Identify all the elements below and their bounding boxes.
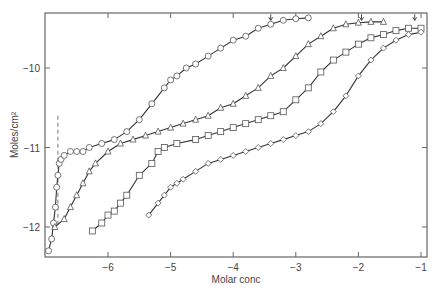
triangle-marker bbox=[230, 100, 236, 106]
circle-marker bbox=[86, 145, 92, 151]
y-tick-label: −12 bbox=[23, 222, 40, 233]
circle-marker bbox=[205, 53, 211, 59]
triangle-marker bbox=[67, 204, 73, 210]
circle-marker bbox=[52, 204, 58, 210]
square-marker bbox=[280, 109, 286, 115]
triangle-marker bbox=[205, 112, 211, 118]
y-tick-label: −11 bbox=[24, 143, 41, 154]
diamond-marker bbox=[305, 129, 311, 135]
square-marker bbox=[330, 57, 336, 63]
square-marker bbox=[205, 133, 211, 139]
triangle-marker bbox=[105, 148, 111, 154]
triangle-marker bbox=[305, 41, 311, 47]
chart: −6−5−4−3−2−1 −10−11−12 Molar conc Moles/… bbox=[0, 0, 438, 290]
circle-marker bbox=[168, 77, 174, 83]
circle-marker bbox=[174, 73, 180, 79]
diamond-marker bbox=[218, 156, 224, 162]
circle-marker bbox=[149, 101, 155, 107]
square-marker bbox=[218, 129, 224, 135]
circle-marker bbox=[280, 17, 286, 23]
square-marker bbox=[230, 125, 236, 131]
triangle-marker bbox=[318, 33, 324, 39]
square-marker bbox=[318, 69, 324, 75]
circle-marker bbox=[268, 21, 274, 27]
square-marker bbox=[243, 121, 249, 127]
circle-marker bbox=[161, 85, 167, 91]
data-series bbox=[46, 15, 424, 254]
circle-marker bbox=[293, 16, 299, 22]
square-marker bbox=[405, 25, 411, 31]
square-marker bbox=[380, 32, 386, 38]
circle-marker bbox=[55, 172, 61, 178]
triangle-marker bbox=[74, 192, 80, 198]
diamond-marker bbox=[293, 133, 299, 139]
square-marker bbox=[255, 117, 261, 123]
series-line bbox=[49, 18, 309, 251]
triangle-marker bbox=[268, 72, 274, 78]
square-marker bbox=[136, 172, 142, 178]
circle-marker bbox=[74, 148, 80, 154]
triangle-marker bbox=[243, 92, 249, 98]
square-marker bbox=[268, 113, 274, 119]
x-tick-label: −2 bbox=[353, 262, 365, 273]
diamond-marker bbox=[393, 37, 399, 43]
circle-marker bbox=[111, 137, 117, 143]
square-marker bbox=[368, 35, 374, 41]
x-tick-label: −3 bbox=[290, 262, 302, 273]
y-tick-label: −10 bbox=[23, 63, 40, 74]
square-marker bbox=[111, 208, 117, 214]
circle-marker bbox=[305, 15, 311, 21]
triangle-marker bbox=[61, 216, 67, 222]
circle-marker bbox=[54, 184, 60, 190]
circle-marker bbox=[46, 248, 52, 254]
square-marker bbox=[105, 212, 111, 218]
circle-marker bbox=[61, 152, 67, 158]
series-line bbox=[55, 22, 384, 227]
circle-marker bbox=[243, 33, 249, 39]
square-marker bbox=[124, 192, 130, 198]
diamond-marker bbox=[205, 160, 211, 166]
square-marker bbox=[99, 220, 105, 226]
x-tick-label: −5 bbox=[165, 262, 177, 273]
circle-marker bbox=[124, 129, 130, 135]
diamond-marker bbox=[405, 32, 411, 38]
triangle-marker bbox=[80, 180, 86, 186]
diamond-marker bbox=[280, 137, 286, 143]
x-tick-label: −4 bbox=[227, 262, 239, 273]
diamond-marker bbox=[174, 180, 180, 186]
circle-marker bbox=[230, 37, 236, 43]
square-marker bbox=[305, 85, 311, 91]
circle-marker bbox=[218, 45, 224, 51]
circle-marker bbox=[136, 117, 142, 123]
circle-marker bbox=[67, 148, 73, 154]
square-marker bbox=[89, 228, 95, 234]
square-marker bbox=[193, 137, 199, 143]
square-marker bbox=[174, 141, 180, 147]
square-marker bbox=[293, 97, 299, 103]
circle-marker bbox=[99, 141, 105, 147]
diamond-marker bbox=[255, 145, 261, 151]
x-axis-ticks: −6−5−4−3−2−1 bbox=[102, 13, 427, 273]
diamond-marker bbox=[230, 152, 236, 158]
square-marker bbox=[393, 28, 399, 34]
square-marker bbox=[355, 41, 361, 47]
square-marker bbox=[161, 145, 167, 151]
circle-marker bbox=[80, 148, 86, 154]
x-axis-label: Molar conc bbox=[212, 274, 261, 285]
series-circle bbox=[46, 15, 312, 254]
square-marker bbox=[155, 148, 161, 154]
circle-marker bbox=[193, 61, 199, 67]
square-marker bbox=[343, 49, 349, 55]
diamond-marker bbox=[193, 168, 199, 174]
annotations bbox=[58, 14, 417, 227]
y-axis-ticks: −10−11−12 bbox=[23, 63, 427, 233]
y-axis-label: Moles/cm² bbox=[9, 111, 20, 158]
square-marker bbox=[118, 200, 124, 206]
diamond-marker bbox=[180, 176, 186, 182]
series-line bbox=[149, 32, 421, 215]
circle-marker bbox=[49, 236, 55, 242]
x-tick-label: −6 bbox=[102, 262, 114, 273]
x-tick-label: −1 bbox=[415, 262, 427, 273]
square-marker bbox=[149, 160, 155, 166]
circle-marker bbox=[183, 65, 189, 71]
